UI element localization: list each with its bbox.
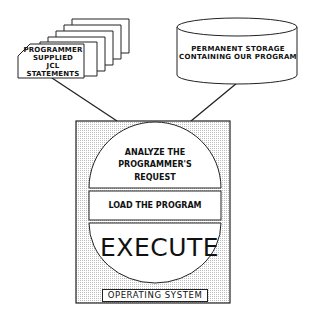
label-line: PROGRAMMER <box>22 46 84 54</box>
label-line: SUPPLIED <box>22 54 84 62</box>
permanent-storage-label: PERMANENT STORAGE CONTAINING OUR PROGRAM <box>178 45 298 61</box>
execute-label: EXECUTE <box>100 234 210 263</box>
load-program-label: LOAD THE PROGRAM <box>100 201 210 210</box>
label-line: STATEMENTS <box>22 70 84 78</box>
label-line: REQUEST <box>100 172 210 184</box>
label-line: JCL <box>22 62 84 70</box>
analyze-request-label: ANALYZE THE PROGRAMMER'S REQUEST <box>100 147 210 184</box>
operating-system-label: OPERATING SYSTEM <box>102 289 208 302</box>
connector-jcl-to-os <box>52 78 117 121</box>
jcl-statements-label: PROGRAMMER SUPPLIED JCL STATEMENTS <box>22 46 84 78</box>
connector-storage-to-os <box>191 83 237 121</box>
label-line: PERMANENT STORAGE <box>178 45 298 53</box>
label-line: ANALYZE THE <box>100 147 210 159</box>
label-line: CONTAINING OUR PROGRAM <box>178 53 298 61</box>
label-line: PROGRAMMER'S <box>100 159 210 171</box>
